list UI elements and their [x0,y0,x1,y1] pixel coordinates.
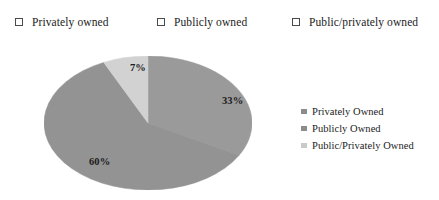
legend-checkbox-label: Public/privately owned [309,16,418,28]
legend-checkbox-item-publicly-owned[interactable]: Publicly owned [157,12,247,32]
pie-slice-label-privately-owned: 33% [222,95,243,106]
legend-checkbox-label: Privately owned [32,16,109,28]
empty-checkbox-icon[interactable] [292,18,300,26]
top-checkbox-legend: Privately owned Publicly owned Public/pr… [0,12,439,34]
legend-swatch-icon [301,143,307,148]
legend-swatch-icon [301,109,307,114]
legend-item-privately-owned[interactable]: Privately Owned [301,104,435,119]
legend-item-public-privately-owned[interactable]: Public/Privately Owned [301,138,435,153]
legend-item-label: Privately Owned [312,106,384,117]
empty-checkbox-icon[interactable] [157,18,165,26]
legend-swatch-icon [301,126,307,131]
legend-item-label: Public/Privately Owned [312,140,414,151]
legend-item-publicly-owned[interactable]: Publicly Owned [301,121,435,136]
pie-chart-svg [44,56,252,190]
pie-chart-figure: Privately owned Publicly owned Public/pr… [0,0,439,200]
empty-checkbox-icon[interactable] [15,18,23,26]
legend-item-label: Publicly Owned [312,123,381,134]
chart-legend: Privately Owned Publicly Owned Public/Pr… [301,104,435,155]
legend-checkbox-item-public-privately-owned[interactable]: Public/privately owned [292,12,418,32]
legend-checkbox-label: Publicly owned [174,16,247,28]
legend-checkbox-item-privately-owned[interactable]: Privately owned [15,12,109,32]
pie-chart: 33% 60% 7% [44,56,252,190]
pie-slice-label-public-privately-owned: 7% [130,62,146,73]
pie-slice-label-publicly-owned: 60% [89,156,110,167]
pie-slice-group [44,56,252,190]
